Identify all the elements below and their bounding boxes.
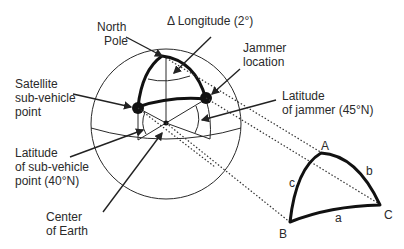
label-satellite-line1: Satellite bbox=[15, 77, 58, 91]
label-lat-sub-line1: Latitude bbox=[15, 146, 58, 160]
leader-center-of-earth bbox=[103, 133, 162, 212]
label-center-line2: of Earth bbox=[46, 224, 88, 238]
leader-north-pole bbox=[126, 37, 162, 56]
label-satellite-point: Satellite sub-vehicle point bbox=[15, 77, 79, 119]
side-label-a: a bbox=[335, 211, 342, 225]
vertex-label-B: B bbox=[279, 227, 287, 241]
leader-delta-longitude bbox=[174, 37, 211, 73]
label-delta-longitude: Δ Longitude (2°) bbox=[167, 14, 253, 28]
label-jammer-location: Jammer location bbox=[243, 41, 290, 69]
side-label-c: c bbox=[289, 176, 295, 190]
latitude-arc-subvehicle bbox=[143, 112, 146, 134]
label-satellite-line2: sub-vehicle bbox=[15, 91, 76, 105]
latitude-circle-top bbox=[148, 76, 190, 81]
latitude-arc-jammer bbox=[195, 106, 199, 133]
label-north-pole-line1: North bbox=[97, 20, 126, 34]
diagram-canvas: North Pole Δ Longitude (2°) Jammer locat… bbox=[0, 0, 404, 249]
label-jammer-line1: Jammer bbox=[243, 41, 286, 55]
leader-satellite-point bbox=[73, 94, 131, 107]
label-latitude-jammer: Latitude of jammer (45°N) bbox=[282, 89, 373, 117]
label-jammer-line2: location bbox=[243, 55, 284, 69]
label-lat-jammer-line2: of jammer (45°N) bbox=[282, 103, 373, 117]
label-north-pole: North Pole bbox=[97, 20, 130, 48]
radius-to-equator-right bbox=[166, 123, 210, 139]
leader-latitude-jammer bbox=[202, 100, 276, 120]
spherical-triangle-diagram: North Pole Δ Longitude (2°) Jammer locat… bbox=[0, 0, 404, 249]
label-lat-sub-line3: point (40°N) bbox=[15, 174, 79, 188]
vertex-label-A: A bbox=[321, 139, 329, 153]
label-center-line1: Center bbox=[46, 210, 82, 224]
label-lat-sub-line2: of sub-vehicle bbox=[15, 160, 89, 174]
leader-jammer-location bbox=[212, 69, 240, 94]
label-north-pole-line2: Pole bbox=[104, 34, 128, 48]
globe-triangle bbox=[138, 56, 206, 107]
label-satellite-line3: point bbox=[15, 105, 42, 119]
leader-latitude-subvehicle bbox=[70, 130, 143, 157]
radius-to-equator-left bbox=[138, 123, 166, 140]
side-label-b: b bbox=[366, 164, 373, 178]
vertex-label-C: C bbox=[384, 208, 393, 222]
label-lat-jammer-line1: Latitude bbox=[282, 89, 325, 103]
label-center-of-earth: Center of Earth bbox=[46, 210, 88, 238]
radius-to-jammer bbox=[166, 99, 206, 123]
